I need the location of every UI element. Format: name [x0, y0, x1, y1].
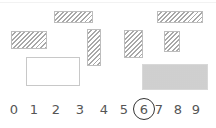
- digit-9[interactable]: 9: [189, 102, 203, 118]
- digit-4[interactable]: 4: [97, 102, 111, 118]
- hatched-rect-top-right[interactable]: [157, 11, 203, 23]
- dotted-rect[interactable]: [142, 64, 208, 90]
- digit-8[interactable]: 8: [171, 102, 185, 118]
- digit-0[interactable]: 0: [7, 102, 21, 118]
- top-divider: [0, 2, 216, 3]
- hatched-rect-left[interactable]: [11, 31, 47, 49]
- hatched-rect-mid[interactable]: [124, 30, 143, 58]
- empty-rect[interactable]: [26, 57, 80, 86]
- selection-circle: [133, 98, 155, 120]
- hatched-rect-small[interactable]: [164, 31, 180, 52]
- digit-5[interactable]: 5: [117, 102, 131, 118]
- hatched-rect-tall[interactable]: [87, 29, 101, 66]
- digit-3[interactable]: 3: [73, 102, 87, 118]
- digit-1[interactable]: 1: [27, 102, 41, 118]
- digit-2[interactable]: 2: [49, 102, 63, 118]
- hatched-rect-top-left[interactable]: [54, 11, 93, 23]
